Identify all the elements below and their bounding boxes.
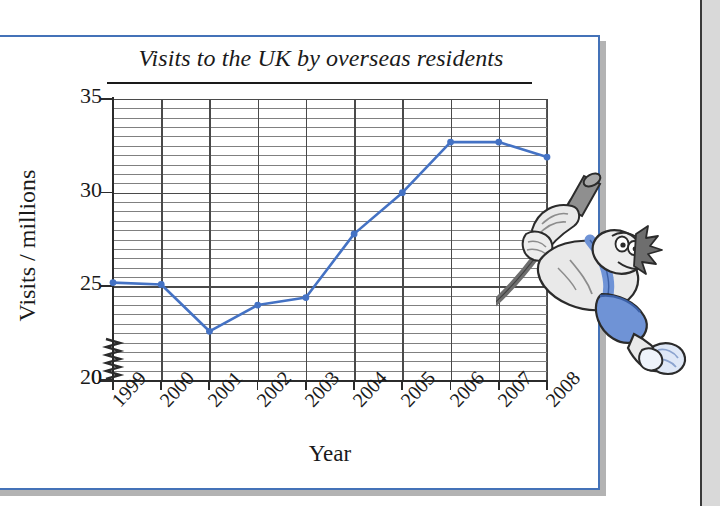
y-axis-break-icon xyxy=(102,337,126,381)
y-axis-tick-label: 25 xyxy=(62,270,102,296)
gridline-minor-horizontal xyxy=(113,314,547,315)
gridline-minor-horizontal xyxy=(113,118,547,119)
gridline-minor-horizontal xyxy=(113,361,547,362)
y-axis-title: Visits / millions xyxy=(14,141,41,351)
y-axis-tick xyxy=(101,285,112,287)
gridline-minor-horizontal xyxy=(113,230,547,231)
chart-title-underline xyxy=(107,82,532,84)
gridline-minor-horizontal xyxy=(113,155,547,156)
gridline-vertical xyxy=(402,99,403,380)
pole-vaulter-icon xyxy=(496,168,706,393)
gridline-minor-horizontal xyxy=(113,136,547,137)
y-axis-tick-label: 30 xyxy=(62,177,102,203)
gridline-minor-horizontal xyxy=(113,268,547,269)
gridline-minor-horizontal xyxy=(113,211,547,212)
gridline-minor-horizontal xyxy=(113,333,547,334)
gridline-minor-horizontal xyxy=(113,296,547,297)
gridline-minor-horizontal xyxy=(113,221,547,222)
plot-gridlines xyxy=(113,99,547,380)
y-axis-tick-label: 0 xyxy=(62,364,102,390)
chart-title: Visits to the UK by overseas residents xyxy=(86,45,556,72)
gridline-minor-horizontal xyxy=(113,108,547,109)
gridline-minor-horizontal xyxy=(113,174,547,175)
gridline-minor-horizontal xyxy=(113,165,547,166)
chart: Visits to the UK by overseas residents 3… xyxy=(0,37,582,487)
gridline-minor-horizontal xyxy=(113,240,547,241)
gridline-vertical xyxy=(209,99,210,380)
gridline-minor-horizontal xyxy=(113,249,547,250)
gridline-vertical xyxy=(354,99,355,380)
gridline-minor-horizontal xyxy=(113,343,547,344)
gridline-minor-horizontal xyxy=(113,324,547,325)
gridline-minor-horizontal xyxy=(113,352,547,353)
scan-top-margin xyxy=(0,0,720,30)
y-axis-tick-label: 35 xyxy=(62,83,102,109)
gridline-major-horizontal xyxy=(113,193,547,194)
gridline-vertical xyxy=(258,99,259,380)
gridline-major-horizontal xyxy=(113,99,547,100)
gridline-minor-horizontal xyxy=(113,146,547,147)
gridline-minor-horizontal xyxy=(113,258,547,259)
gridline-minor-horizontal xyxy=(113,127,547,128)
gridline-vertical xyxy=(161,99,162,380)
gridline-minor-horizontal xyxy=(113,305,547,306)
gridline-minor-horizontal xyxy=(113,277,547,278)
gridline-minor-horizontal xyxy=(113,202,547,203)
gridline-vertical xyxy=(451,99,452,380)
y-axis-tick-labels: 353025200 xyxy=(44,37,102,487)
y-axis-tick xyxy=(101,379,112,381)
y-axis-tick xyxy=(101,192,112,194)
x-axis-title: Year xyxy=(113,441,547,467)
gridline-minor-horizontal xyxy=(113,183,547,184)
y-axis-tick xyxy=(101,98,112,100)
gridline-major-horizontal xyxy=(113,286,547,287)
gridline-vertical xyxy=(306,99,307,380)
